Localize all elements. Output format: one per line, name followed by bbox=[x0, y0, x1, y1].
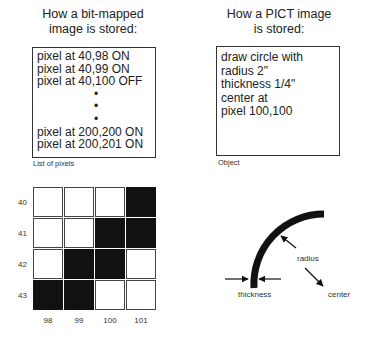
thickness-label: thickness bbox=[238, 290, 271, 299]
arc-diagram bbox=[0, 0, 369, 339]
center-label: center bbox=[328, 290, 350, 299]
radius-label: radius bbox=[297, 254, 319, 263]
